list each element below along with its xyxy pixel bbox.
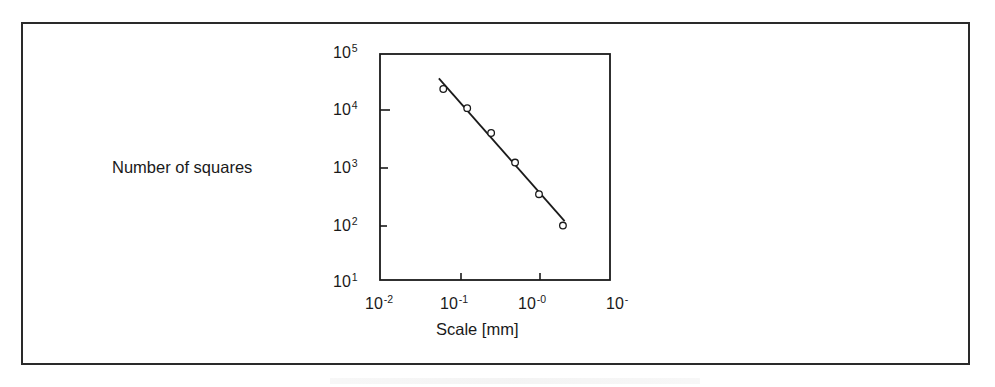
data-series: [439, 78, 566, 228]
fit-line: [439, 78, 565, 221]
x-ticks: [461, 273, 540, 280]
plot-area: [0, 0, 995, 387]
axes-frame: [380, 54, 610, 280]
data-point-marker: [440, 86, 447, 93]
y-ticks: [380, 110, 390, 226]
data-point-marker: [512, 159, 519, 166]
data-point-marker: [560, 222, 567, 229]
data-point-marker: [464, 105, 471, 112]
data-point-marker: [488, 130, 495, 137]
data-point-marker: [536, 191, 543, 198]
cropped-caption: [330, 378, 700, 384]
